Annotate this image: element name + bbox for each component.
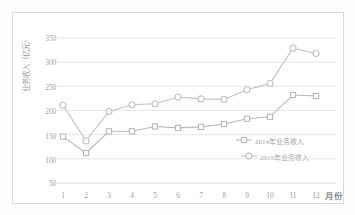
data-point-2015-m2	[83, 138, 89, 144]
data-point-2014-m4	[129, 129, 134, 134]
data-point-2014-m11	[290, 92, 295, 97]
data-point-2014-m7	[198, 124, 203, 129]
legend-marker-2015	[246, 153, 252, 159]
series-line-2014	[63, 95, 316, 153]
data-point-2014-m9	[244, 116, 249, 121]
data-point-2015-m10	[267, 80, 273, 86]
data-point-2015-m6	[175, 94, 181, 100]
gridlines	[52, 38, 336, 183]
data-point-2015-m5	[152, 101, 158, 107]
data-point-2014-m5	[152, 124, 157, 129]
data-point-2015-m11	[290, 45, 296, 51]
data-point-2015-m9	[244, 87, 250, 93]
data-point-2014-m12	[313, 93, 318, 98]
data-point-2015-m4	[129, 102, 135, 108]
data-point-2015-m1	[60, 102, 66, 108]
series-layer	[60, 45, 319, 155]
data-point-2015-m7	[198, 96, 204, 102]
data-point-2015-m3	[106, 108, 112, 114]
data-point-2015-m12	[313, 50, 319, 56]
legend-marker-2014	[241, 137, 246, 142]
data-point-2014-m10	[267, 114, 272, 119]
data-point-2014-m1	[60, 134, 65, 139]
chart-svg	[0, 0, 355, 215]
data-point-2014-m3	[106, 129, 111, 134]
legend-glyphs	[236, 137, 257, 159]
data-point-2014-m6	[175, 125, 180, 130]
data-point-2014-m8	[221, 121, 226, 126]
data-point-2015-m8	[221, 96, 227, 102]
chart-container: 业务收入（亿元） 350 300 250 200 150 100 50 1 2 …	[0, 0, 355, 215]
data-point-2014-m2	[83, 150, 88, 155]
